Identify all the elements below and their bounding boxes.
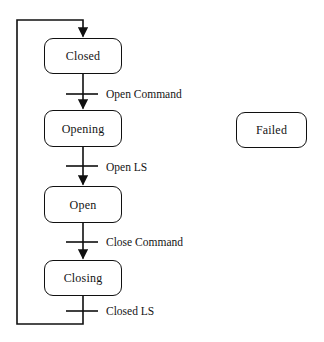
edge-opening-to-open — [66, 147, 98, 185]
state-node-opening[interactable]: Opening — [44, 110, 122, 147]
transition-label-close-command: Close Command — [106, 237, 183, 249]
state-label-open: Open — [70, 199, 97, 211]
edge-closed-to-opening — [66, 74, 98, 109]
state-label-closing: Closing — [64, 272, 103, 284]
transition-label-open-command: Open Command — [106, 89, 182, 101]
state-label-failed: Failed — [256, 124, 287, 136]
state-node-open[interactable]: Open — [44, 186, 122, 223]
state-node-failed[interactable]: Failed — [236, 112, 307, 148]
state-node-closing[interactable]: Closing — [44, 260, 122, 296]
edge-open-to-closing — [66, 223, 98, 259]
transition-label-open-ls: Open LS — [106, 162, 147, 174]
transition-label-closed-ls: Closed LS — [106, 306, 154, 318]
state-label-opening: Opening — [62, 123, 105, 135]
state-node-closed[interactable]: Closed — [44, 38, 122, 74]
state-machine-diagram: Closed Opening Open Closing Failed Open … — [0, 0, 324, 342]
state-label-closed: Closed — [66, 50, 101, 62]
